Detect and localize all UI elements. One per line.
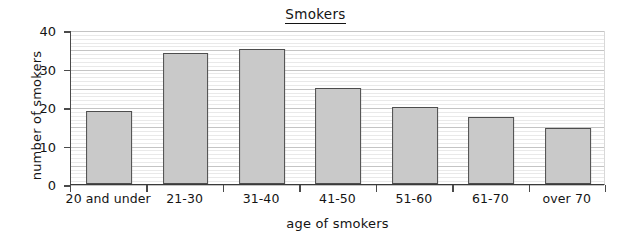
x-tick-label: 31-40 [243, 191, 280, 206]
x-tick-label: 51-60 [396, 191, 433, 206]
y-tick-label: 30 [8, 62, 56, 77]
bar-chart: Smokers number of smokers 010203040 20 a… [0, 0, 631, 242]
chart-title: Smokers [0, 6, 631, 22]
x-tick-label: 61-70 [472, 191, 509, 206]
bar-slot [147, 31, 223, 184]
bars-layer [71, 31, 604, 184]
y-tick-label: 40 [8, 24, 56, 39]
bar-slot [224, 31, 300, 184]
bar[interactable] [86, 111, 132, 184]
bar-slot [377, 31, 453, 184]
bar[interactable] [239, 49, 285, 184]
x-tick-label: 21-30 [166, 191, 203, 206]
plot-area [70, 31, 605, 185]
bar[interactable] [392, 107, 438, 184]
x-tick-mark [605, 185, 606, 192]
x-tick-label: 20 and under [66, 191, 151, 206]
x-axis-tick-labels: 20 and under21-3031-4041-5051-6061-70ove… [70, 191, 605, 213]
bar[interactable] [468, 117, 514, 184]
y-tick-label: 10 [8, 139, 56, 154]
bar[interactable] [163, 53, 209, 184]
chart-title-text: Smokers [285, 6, 345, 24]
y-tick-label: 20 [8, 101, 56, 116]
bar[interactable] [545, 128, 591, 184]
bar-slot [71, 31, 147, 184]
bar[interactable] [316, 88, 362, 184]
x-tick-label: over 70 [543, 191, 591, 206]
bar-slot [300, 31, 376, 184]
y-tick-label: 0 [8, 178, 56, 193]
y-axis-ticks: 010203040 [0, 0, 70, 242]
bar-slot [530, 31, 606, 184]
x-tick-label: 41-50 [319, 191, 356, 206]
bar-slot [453, 31, 529, 184]
x-axis-title: age of smokers [70, 216, 605, 231]
